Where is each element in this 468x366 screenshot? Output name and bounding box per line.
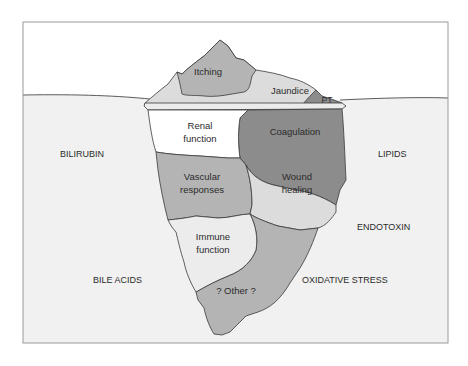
label-vascular-2: responses bbox=[180, 184, 224, 195]
label-pt: PT bbox=[322, 95, 333, 105]
label-endotoxin: ENDOTOXIN bbox=[357, 222, 410, 232]
label-itching: Itching bbox=[194, 66, 222, 77]
label-coagulation: Coagulation bbox=[270, 126, 321, 137]
label-other: ? Other ? bbox=[216, 285, 256, 296]
label-renal-1: Renal bbox=[188, 120, 213, 131]
label-jaundice: Jaundice bbox=[271, 85, 309, 96]
label-oxidative-stress: OXIDATIVE STRESS bbox=[302, 275, 388, 285]
iceberg-diagram: Itching Jaundice PT Renal function Coagu… bbox=[0, 0, 468, 366]
label-wound-2: healing bbox=[282, 184, 313, 195]
label-lipids: LIPIDS bbox=[378, 149, 407, 159]
label-bilirubin: BILIRUBIN bbox=[60, 149, 104, 159]
label-bile-acids: BILE ACIDS bbox=[93, 275, 142, 285]
label-renal-2: function bbox=[183, 133, 216, 144]
label-immune-2: function bbox=[196, 244, 229, 255]
label-immune-1: Immune bbox=[196, 231, 230, 242]
label-vascular-1: Vascular bbox=[184, 171, 220, 182]
label-wound-1: Wound bbox=[282, 171, 312, 182]
